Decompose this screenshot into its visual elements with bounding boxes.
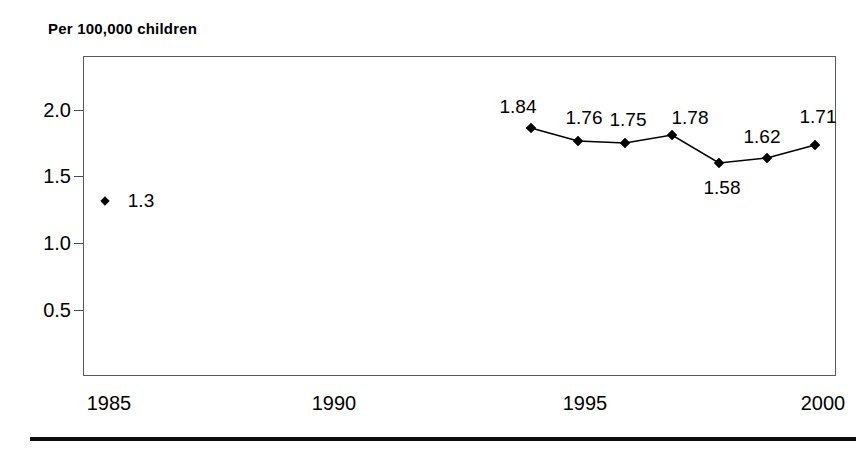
data-point-label: 1.78	[672, 107, 709, 129]
y-tick-mark-1-5	[74, 176, 83, 177]
y-tick-label-2-0: 2.0	[43, 99, 71, 122]
data-point-label: 1.58	[704, 177, 741, 199]
data-point-label: 1.84	[500, 96, 537, 118]
plot-area	[83, 56, 836, 376]
x-tick-label-1985: 1985	[87, 392, 132, 415]
y-tick-label-1-5: 1.5	[43, 165, 71, 188]
bottom-rule	[30, 437, 856, 441]
x-tick-label-1995: 1995	[563, 392, 608, 415]
y-tick-label-0-5: 0.5	[43, 299, 71, 322]
data-point-label: 1.76	[566, 107, 603, 129]
y-tick-label-1-0: 1.0	[43, 232, 71, 255]
x-tick-label-1990: 1990	[312, 392, 357, 415]
data-point-label: 1.71	[800, 106, 837, 128]
chart-figure: Per 100,000 children 2.0 1.5 1.0 0.5 198…	[0, 0, 868, 458]
data-point-label: 1.62	[744, 126, 781, 148]
data-point-label: 1.3	[128, 190, 154, 212]
data-point-label: 1.75	[610, 109, 647, 131]
y-tick-mark-2-0	[74, 110, 83, 111]
y-axis: 2.0 1.5 1.0 0.5	[0, 0, 71, 458]
y-tick-mark-1-0	[74, 243, 83, 244]
y-tick-mark-0-5	[74, 310, 83, 311]
x-tick-label-2000: 2000	[801, 392, 846, 415]
